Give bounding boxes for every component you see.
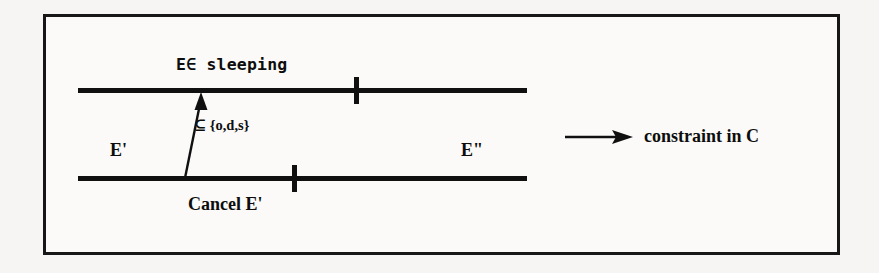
- legend-label: constraint in C: [644, 127, 759, 145]
- diagram-canvas: E∈ sleeping ⊆ {o,d,s} E' E" Cancel E' co…: [0, 0, 879, 273]
- timeline-top-tick: [354, 77, 359, 104]
- timeline-bottom-tick: [292, 165, 297, 192]
- timeline-top: [78, 88, 527, 93]
- constraint-arrow-label: ⊆ {o,d,s}: [194, 118, 249, 133]
- timeline-bottom-left-label: E': [110, 141, 127, 159]
- timeline-bottom: [78, 176, 527, 181]
- timeline-bottom-right-label: E": [461, 141, 483, 159]
- timeline-top-label: E∈ sleeping: [176, 57, 287, 74]
- timeline-bottom-below-label: Cancel E': [188, 195, 263, 213]
